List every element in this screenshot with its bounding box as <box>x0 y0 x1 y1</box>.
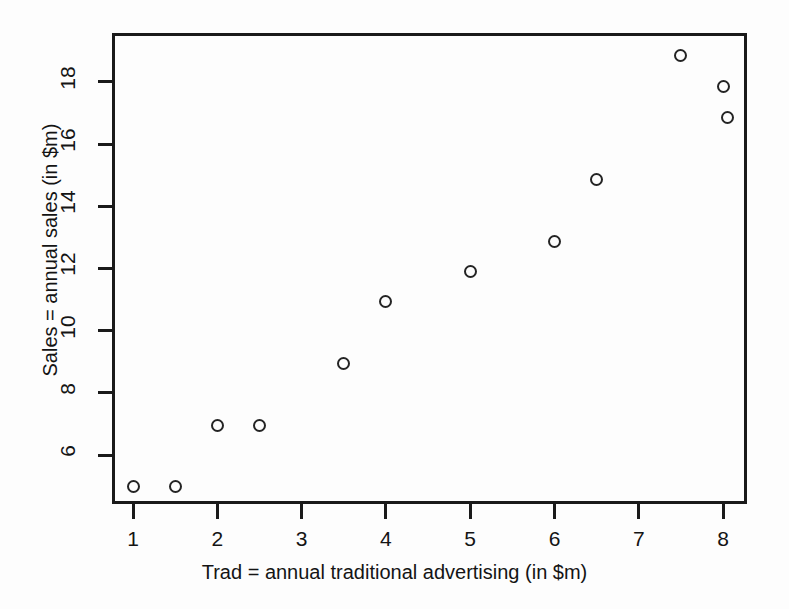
x-tick-label: 1 <box>113 527 153 551</box>
data-point <box>674 49 687 62</box>
data-point <box>253 419 266 432</box>
data-point <box>127 480 140 493</box>
x-tick-mark <box>384 504 387 519</box>
x-tick-label: 2 <box>197 527 237 551</box>
data-point <box>464 265 477 278</box>
scatter-plot-figure: 681012141618 12345678 Trad = annual trad… <box>0 0 789 609</box>
y-axis-title: Sales = annual sales (in $m) <box>39 124 62 377</box>
x-tick-label: 8 <box>703 527 743 551</box>
y-tick-mark <box>98 454 112 457</box>
data-point <box>211 419 224 432</box>
data-points-layer <box>112 33 747 504</box>
x-tick-mark <box>637 504 640 519</box>
x-tick-label: 7 <box>619 527 659 551</box>
y-tick-mark <box>98 143 112 146</box>
x-axis-title: Trad = annual traditional advertising (i… <box>0 561 789 584</box>
data-point <box>379 295 392 308</box>
x-tick-mark <box>216 504 219 519</box>
y-tick-mark <box>98 391 112 394</box>
data-point <box>169 480 182 493</box>
x-tick-mark <box>722 504 725 519</box>
x-tick-mark <box>469 504 472 519</box>
data-point <box>590 173 603 186</box>
data-point <box>337 357 350 370</box>
x-tick-label: 3 <box>282 527 322 551</box>
x-tick-mark <box>553 504 556 519</box>
y-tick-mark <box>98 205 112 208</box>
y-tick-mark <box>98 267 112 270</box>
y-tick-mark <box>98 80 112 83</box>
x-tick-label: 5 <box>450 527 490 551</box>
x-tick-label: 4 <box>366 527 406 551</box>
x-tick-mark <box>132 504 135 519</box>
data-point <box>717 80 730 93</box>
data-point <box>548 235 561 248</box>
y-axis-title-wrapper: Sales = annual sales (in $m) <box>30 0 70 500</box>
x-tick-mark <box>300 504 303 519</box>
data-point <box>721 111 734 124</box>
y-tick-mark <box>98 329 112 332</box>
x-tick-label: 6 <box>535 527 575 551</box>
